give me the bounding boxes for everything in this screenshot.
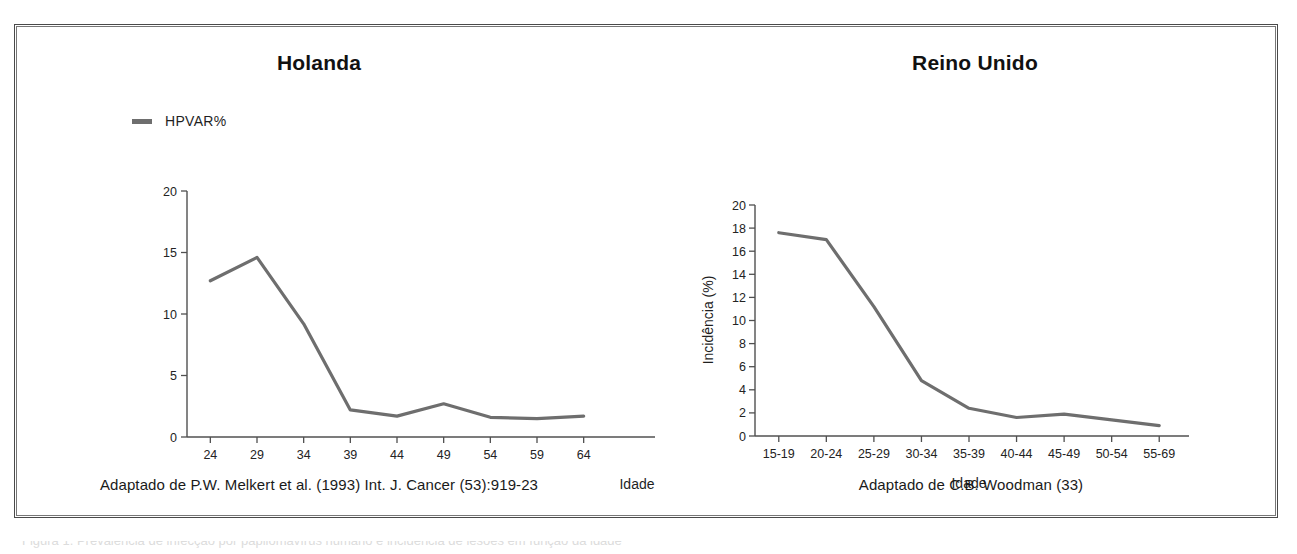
plot-area-holanda: 05101520242934394449545964Idade bbox=[135, 155, 615, 455]
legend-swatch-icon bbox=[132, 119, 152, 124]
svg-text:15: 15 bbox=[163, 246, 177, 260]
svg-text:2: 2 bbox=[739, 406, 746, 420]
svg-text:59: 59 bbox=[530, 448, 544, 462]
svg-text:64: 64 bbox=[577, 448, 591, 462]
chart-legend-holanda: HPVAR% bbox=[132, 113, 226, 129]
svg-text:20-24: 20-24 bbox=[810, 447, 842, 461]
svg-text:0: 0 bbox=[739, 430, 746, 444]
svg-text:24: 24 bbox=[203, 448, 217, 462]
plot-area-reino-unido: 0246810121416182015-1920-2425-2930-3435-… bbox=[695, 165, 1235, 465]
svg-text:20: 20 bbox=[163, 185, 177, 199]
svg-text:0: 0 bbox=[170, 431, 177, 445]
figure-frame: Holanda HPVAR% 0510152024293439444954596… bbox=[14, 24, 1278, 518]
svg-text:44: 44 bbox=[390, 448, 404, 462]
footer-sliver-text: Figura 1. Prevalência de infecção por pa… bbox=[22, 541, 1252, 547]
svg-text:40-44: 40-44 bbox=[1001, 447, 1033, 461]
source-caption-reino-unido: Adaptado de C.B. Woodman (33) bbox=[659, 476, 1283, 493]
line-chart-holanda: 05101520242934394449545964Idade bbox=[135, 155, 625, 485]
svg-text:16: 16 bbox=[732, 245, 746, 259]
svg-text:15-19: 15-19 bbox=[763, 447, 795, 461]
svg-text:18: 18 bbox=[732, 222, 746, 236]
svg-text:Incidência (%): Incidência (%) bbox=[700, 276, 716, 365]
svg-text:10: 10 bbox=[163, 308, 177, 322]
svg-text:10: 10 bbox=[732, 314, 746, 328]
svg-text:54: 54 bbox=[483, 448, 497, 462]
chart-title-holanda: Holanda bbox=[0, 51, 639, 75]
line-chart-reino-unido: 0246810121416182015-1920-2425-2930-3435-… bbox=[695, 165, 1255, 495]
svg-text:49: 49 bbox=[437, 448, 451, 462]
svg-text:35-39: 35-39 bbox=[953, 447, 985, 461]
svg-text:12: 12 bbox=[732, 291, 746, 305]
svg-text:39: 39 bbox=[343, 448, 357, 462]
svg-text:30-34: 30-34 bbox=[905, 447, 937, 461]
source-caption-holanda: Adaptado de P.W. Melkert et al. (1993) I… bbox=[0, 476, 639, 493]
legend-label-hpvar: HPVAR% bbox=[165, 113, 226, 129]
svg-text:50-54: 50-54 bbox=[1096, 447, 1128, 461]
svg-text:6: 6 bbox=[739, 360, 746, 374]
svg-text:34: 34 bbox=[297, 448, 311, 462]
svg-text:25-29: 25-29 bbox=[858, 447, 890, 461]
svg-text:29: 29 bbox=[250, 448, 264, 462]
svg-text:20: 20 bbox=[732, 199, 746, 213]
svg-text:14: 14 bbox=[732, 268, 746, 282]
chart-panel-holanda: Holanda HPVAR% 0510152024293439444954596… bbox=[15, 25, 655, 517]
svg-text:4: 4 bbox=[739, 383, 746, 397]
svg-text:55-69: 55-69 bbox=[1143, 447, 1175, 461]
svg-text:45-49: 45-49 bbox=[1048, 447, 1080, 461]
page-footer-cropped-text: Figura 1. Prevalência de infecção por pa… bbox=[22, 541, 1252, 554]
chart-title-reino-unido: Reino Unido bbox=[663, 51, 1287, 75]
svg-text:8: 8 bbox=[739, 337, 746, 351]
chart-panel-reino-unido: Reino Unido 0246810121416182015-1920-242… bbox=[655, 25, 1279, 517]
svg-text:5: 5 bbox=[170, 369, 177, 383]
